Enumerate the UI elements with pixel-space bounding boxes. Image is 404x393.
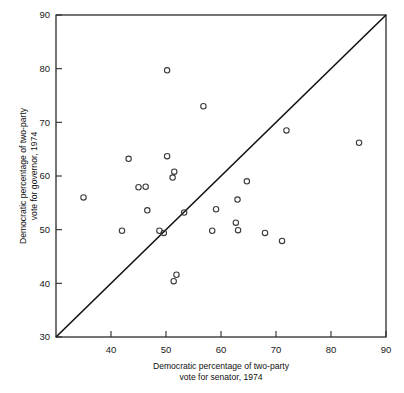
scatter-plot-figure: 40506070809030405060708090Democratic per… — [0, 0, 404, 393]
data-point-13 — [174, 272, 179, 277]
y-tick-label-50: 50 — [39, 224, 50, 235]
data-point-2 — [126, 156, 131, 161]
y-tick-label-70: 70 — [39, 117, 50, 128]
x-axis-title-line2: vote for senator, 1974 — [179, 372, 262, 382]
x-axis-title-line1: Democratic percentage of two-party — [153, 361, 290, 371]
data-point-23 — [279, 238, 284, 243]
x-tick-label-80: 80 — [326, 344, 337, 355]
data-point-12 — [171, 278, 176, 283]
y-tick-label-80: 80 — [39, 63, 50, 74]
data-point-1 — [119, 228, 124, 233]
y-tick-label-40: 40 — [39, 278, 50, 289]
data-point-10 — [170, 175, 175, 180]
y-axis-title-line2: vote for governor, 1974 — [29, 132, 39, 221]
data-point-8 — [164, 68, 169, 73]
x-tick-label-90: 90 — [381, 344, 392, 355]
data-point-3 — [136, 185, 141, 190]
data-point-20 — [235, 228, 240, 233]
x-tick-label-40: 40 — [106, 344, 117, 355]
data-point-16 — [210, 228, 215, 233]
x-tick-label-70: 70 — [271, 344, 282, 355]
x-tick-label-50: 50 — [161, 344, 172, 355]
data-point-11 — [172, 169, 177, 174]
data-point-5 — [145, 208, 150, 213]
identity-reference-line — [56, 15, 386, 337]
data-point-15 — [201, 104, 206, 109]
data-point-0 — [81, 195, 86, 200]
data-point-22 — [262, 230, 267, 235]
data-point-24 — [284, 128, 289, 133]
y-tick-label-60: 60 — [39, 170, 50, 181]
y-axis-title-line1: Democratic percentage of two-party — [18, 107, 28, 244]
data-point-9 — [164, 153, 169, 158]
data-point-4 — [143, 184, 148, 189]
y-tick-label-30: 30 — [39, 331, 50, 342]
data-point-25 — [356, 140, 361, 145]
data-point-19 — [235, 197, 240, 202]
y-tick-label-90: 90 — [39, 9, 50, 20]
x-tick-label-60: 60 — [216, 344, 227, 355]
scatter-plot-canvas: 40506070809030405060708090Democratic per… — [0, 0, 404, 393]
data-point-18 — [233, 220, 238, 225]
data-point-17 — [213, 207, 218, 212]
data-point-21 — [244, 179, 249, 184]
